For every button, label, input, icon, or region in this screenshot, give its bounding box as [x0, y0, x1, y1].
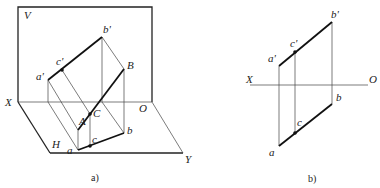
label-B: B	[127, 59, 134, 71]
caption-b: b)	[308, 173, 316, 185]
point-c	[293, 131, 297, 135]
point-c-prime	[293, 50, 297, 54]
label-a-prime: a'	[36, 70, 45, 82]
label-X: X	[245, 73, 254, 85]
label-b: b	[336, 91, 342, 103]
label-c-prime: c'	[290, 37, 298, 49]
line-a-prime-b-prime	[279, 22, 332, 66]
label-X: X	[4, 96, 13, 108]
projector-b-axis-to-b	[102, 102, 124, 133]
line-ab	[78, 133, 124, 150]
label-a-prime: a'	[268, 52, 277, 64]
label-b-prime: b'	[103, 23, 112, 35]
caption-a: a)	[91, 172, 99, 184]
projector-c-prime-to-C	[62, 70, 90, 114]
oy-axis	[152, 102, 183, 153]
label-A: A	[78, 115, 86, 127]
label-c: c	[92, 133, 97, 145]
point-c-prime	[60, 68, 64, 72]
v-plane-frame	[18, 7, 152, 102]
label-b: b	[127, 124, 133, 136]
label-O: O	[139, 102, 147, 114]
h-plane-left-edge	[18, 102, 50, 153]
figure-a: V X O Y H a' c' b' B A C b c a a)	[4, 7, 193, 184]
point-C	[88, 112, 92, 116]
label-Y: Y	[185, 153, 193, 165]
line-ab	[279, 104, 332, 146]
label-a: a	[269, 146, 275, 158]
projector-b-prime-to-B	[102, 37, 124, 69]
label-b-prime: b'	[331, 8, 340, 20]
label-H: H	[51, 138, 61, 150]
projection-diagram: V X O Y H a' c' b' B A C b c a a) X O a'…	[0, 0, 380, 188]
label-a: a	[67, 144, 73, 156]
label-O: O	[369, 73, 377, 85]
label-V: V	[24, 9, 32, 21]
label-C: C	[93, 107, 101, 119]
label-c: c	[297, 116, 302, 128]
label-c-prime: c'	[56, 55, 64, 67]
figure-b: X O a' c' b' b c a b)	[245, 8, 377, 185]
